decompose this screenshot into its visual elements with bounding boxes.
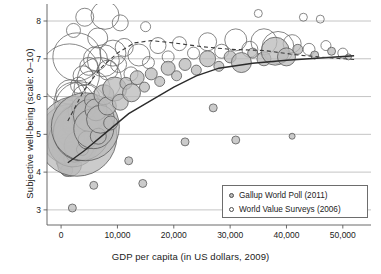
y-tick-label: 4 bbox=[27, 167, 41, 177]
bubble-wvs bbox=[111, 56, 127, 72]
bubble-wvs bbox=[142, 57, 154, 69]
x-tick-label: 40,000 bbox=[273, 230, 299, 240]
legend-marker-circle-icon bbox=[229, 193, 234, 198]
x-axis-title: GDP per capita (in US dollars, 2009) bbox=[0, 251, 381, 262]
legend-label-gallup: Gallup World Poll (2011) bbox=[239, 191, 327, 200]
scatter-chart: GDP per capita (in US dollars, 2009) Sub… bbox=[0, 0, 381, 274]
y-tick-label: 8 bbox=[27, 16, 41, 26]
plot-canvas bbox=[0, 0, 381, 274]
bubble-wvs bbox=[254, 9, 262, 17]
bubble-wvs bbox=[150, 38, 166, 54]
bubble-wvs bbox=[141, 22, 151, 32]
bubble-gallup bbox=[139, 82, 149, 92]
x-tick-label: 50,000 bbox=[330, 230, 356, 240]
x-tick-label: 10,000 bbox=[104, 230, 130, 240]
bubble-gallup bbox=[90, 181, 98, 189]
bubble-wvs bbox=[112, 15, 128, 31]
chart-legend: Gallup World Poll (2011) World Value Sur… bbox=[222, 185, 368, 218]
bubble-gallup bbox=[68, 204, 76, 212]
bubble-gallup bbox=[191, 65, 201, 75]
bubble-gallup bbox=[181, 138, 189, 146]
y-tick-label: 6 bbox=[27, 92, 41, 102]
bubble-gallup bbox=[139, 179, 147, 187]
bubble-gallup bbox=[209, 104, 217, 112]
bubble-gallup bbox=[145, 68, 157, 80]
legend-item-gallup[interactable]: Gallup World Poll (2011) bbox=[227, 188, 363, 202]
bubble-gallup bbox=[293, 44, 303, 54]
bubble-gallup bbox=[200, 51, 216, 67]
y-tick-label: 5 bbox=[27, 129, 41, 139]
bubble-wvs bbox=[188, 47, 200, 59]
y-tick-label: 3 bbox=[27, 205, 41, 215]
bubble-gallup bbox=[123, 84, 141, 102]
legend-label-wvs: World Value Surveys (2006) bbox=[239, 205, 341, 214]
bubble-gallup bbox=[172, 71, 182, 81]
bubble-gallup bbox=[328, 47, 336, 55]
bubble-gallup bbox=[179, 58, 191, 70]
bubble-gallup bbox=[155, 76, 165, 86]
bubble-gallup bbox=[232, 136, 240, 144]
bubble-gallup bbox=[289, 133, 295, 139]
bubble-gallup bbox=[125, 157, 133, 165]
data-point-layer bbox=[37, 1, 354, 212]
y-tick-label: 7 bbox=[27, 54, 41, 64]
x-tick-label: 30,000 bbox=[217, 230, 243, 240]
x-tick-label: 20,000 bbox=[161, 230, 187, 240]
bubble-wvs bbox=[88, 28, 108, 48]
bubble-wvs bbox=[316, 15, 324, 23]
bubble-wvs bbox=[299, 13, 307, 21]
x-tick-label: 0 bbox=[59, 230, 64, 240]
legend-marker-circle-icon bbox=[229, 207, 234, 212]
legend-item-wvs[interactable]: World Value Surveys (2006) bbox=[227, 202, 363, 216]
